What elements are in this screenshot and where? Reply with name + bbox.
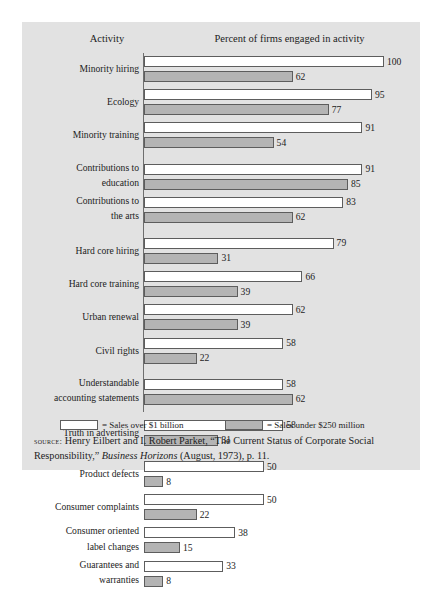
- header-activity: Activity: [52, 33, 162, 44]
- legend-label-small: = Sales under $250 million: [267, 420, 365, 430]
- bar-large: [144, 56, 384, 67]
- bar-group: Contributions toeducation9185: [22, 161, 420, 194]
- bar-value-label: 62: [296, 211, 306, 222]
- category-label: Consumer orientedlabel changes: [21, 523, 139, 554]
- bar-value-label: 77: [332, 104, 342, 115]
- bar-large: [144, 338, 283, 349]
- bar-group: Urban renewal6239: [22, 301, 420, 334]
- bar-small: [144, 576, 163, 587]
- bar-group: Contributions tothe arts8362: [22, 194, 420, 227]
- bar-large: [144, 197, 343, 208]
- bar-group: Hard core training6639: [22, 268, 420, 301]
- exhibit-panel: Activity Percent of firms engaged in act…: [22, 22, 420, 470]
- bar-value-label: 100: [387, 56, 401, 67]
- bar-large: [144, 164, 362, 175]
- bar-small: [144, 353, 197, 364]
- source-text-2: (August, 1973), p. 11.: [177, 450, 269, 461]
- bar-value-label: 91: [365, 122, 375, 133]
- header-percent: Percent of firms engaged in activity: [167, 33, 412, 44]
- column-headings: Activity Percent of firms engaged in act…: [22, 33, 420, 49]
- bar-large: [144, 304, 293, 315]
- bar-value-label: 38: [238, 527, 248, 538]
- bar-large: [144, 494, 264, 505]
- bar-value-label: 91: [365, 163, 375, 174]
- category-label: Hard core training: [21, 276, 139, 292]
- bar-value-label: 62: [296, 304, 306, 315]
- bar-large: [144, 561, 223, 572]
- bar-value-label: 66: [305, 271, 315, 282]
- bar-value-label: 58: [286, 337, 296, 348]
- bar-large: [144, 122, 362, 133]
- bar-small: [144, 394, 293, 405]
- bar-small: [144, 509, 197, 520]
- bar-value-label: 83: [346, 196, 356, 207]
- bar-value-label: 85: [351, 178, 361, 189]
- bar-group: Product defects508: [22, 458, 420, 491]
- category-label: Hard core hiring: [21, 243, 139, 259]
- bar-value-label: 50: [267, 494, 277, 505]
- bar-value-label: 8: [166, 476, 171, 487]
- bar-value-label: 62: [296, 71, 306, 82]
- bar-small: [144, 179, 348, 190]
- bar-groups: Minority hiring10062Ecology9577Minority …: [22, 53, 420, 591]
- bar-large: [144, 379, 283, 390]
- category-label: Minority hiring: [21, 61, 139, 77]
- bar-group: Minority hiring10062: [22, 53, 420, 86]
- running-head: [210, 1, 425, 11]
- bar-group: Guarantees andwarranties338: [22, 558, 420, 591]
- bar-value-label: 39: [241, 319, 251, 330]
- category-label: Ecology: [21, 94, 139, 110]
- legend-item-large-firms: = Sales over $1 billion: [60, 420, 184, 430]
- category-label: Understandableaccounting statements: [21, 375, 139, 406]
- bar-large: [144, 89, 372, 100]
- bar-small: [144, 104, 329, 115]
- category-label: Guarantees andwarranties: [21, 557, 139, 588]
- bar-group: Ecology9577: [22, 86, 420, 119]
- bar-group: Minority training9154: [22, 119, 420, 152]
- bar-value-label: 58: [286, 378, 296, 389]
- bar-large: [144, 527, 235, 538]
- bar-group: Consumer complaints5022: [22, 491, 420, 524]
- category-label: Contributions toeducation: [21, 160, 139, 191]
- bar-large: [144, 271, 302, 282]
- bar-value-label: 8: [166, 575, 171, 586]
- bar-value-label: 33: [226, 560, 236, 571]
- source-journal: Business Horizons: [102, 450, 178, 461]
- bar-large: [144, 238, 334, 249]
- category-label: Product defects: [21, 466, 139, 482]
- category-label: Consumer complaints: [21, 499, 139, 515]
- bar-value-label: 22: [200, 509, 210, 520]
- bar-group: Consumer orientedlabel changes3815: [22, 524, 420, 557]
- category-label: Civil rights: [21, 343, 139, 359]
- bar-small: [144, 542, 180, 553]
- bar-small: [144, 286, 238, 297]
- bar-chart-plot: Minority hiring10062Ecology9577Minority …: [22, 53, 420, 415]
- bar-small: [144, 476, 163, 487]
- bar-value-label: 39: [241, 286, 251, 297]
- bar-value-label: 95: [375, 89, 385, 100]
- bar-value-label: 31: [221, 252, 231, 263]
- category-label: Minority training: [21, 127, 139, 143]
- legend-item-small-firms: = Sales under $250 million: [225, 420, 365, 430]
- bar-small: [144, 253, 218, 264]
- bar-small: [144, 137, 274, 148]
- legend-swatch-small: [225, 420, 263, 430]
- bar-group: Civil rights5822: [22, 335, 420, 368]
- bar-value-label: 22: [200, 352, 210, 363]
- legend-swatch-large: [60, 420, 98, 430]
- bar-value-label: 15: [183, 542, 193, 553]
- bar-value-label: 62: [296, 393, 306, 404]
- source-label: source:: [34, 436, 62, 446]
- legend-label-large: = Sales over $1 billion: [102, 420, 184, 430]
- bar-group: Hard core hiring7931: [22, 235, 420, 268]
- bar-group: Understandableaccounting statements5862: [22, 376, 420, 409]
- bar-small: [144, 71, 293, 82]
- bar-value-label: 50: [267, 461, 277, 472]
- source-note: source: Henry Eilbert and I. Robert Park…: [34, 434, 412, 462]
- category-label: Urban renewal: [21, 309, 139, 325]
- bar-small: [144, 212, 293, 223]
- bar-value-label: 79: [337, 237, 347, 248]
- bar-small: [144, 319, 238, 330]
- category-label: Contributions tothe arts: [21, 193, 139, 224]
